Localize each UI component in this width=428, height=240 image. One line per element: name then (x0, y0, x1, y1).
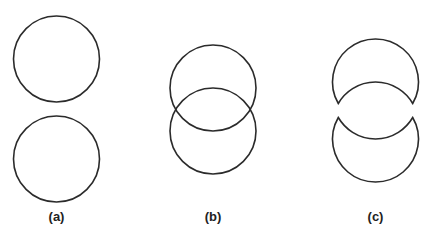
panel-a-label: (a) (37, 209, 77, 224)
circle-a-bottom (14, 116, 100, 202)
panel-a (14, 16, 100, 202)
panel-b (170, 45, 256, 174)
crescent-c-bottom (333, 118, 419, 183)
circle-a-top (14, 16, 100, 102)
diagram-canvas (0, 0, 428, 240)
panel-c (333, 39, 419, 182)
crescent-c-top (333, 39, 419, 104)
panel-b-label: (b) (193, 209, 233, 224)
panel-c-label: (c) (356, 209, 396, 224)
